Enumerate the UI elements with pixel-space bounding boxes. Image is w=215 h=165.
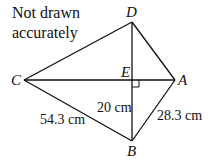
length-label-AB: 28.3 cm — [157, 108, 202, 123]
point-label-C: C — [11, 72, 22, 88]
segment-DA — [132, 22, 175, 80]
point-label-E: E — [120, 64, 130, 80]
right-angle-marker — [132, 80, 139, 87]
point-label-B: B — [127, 143, 136, 159]
length-label-EB: 20 cm — [97, 100, 132, 115]
point-label-D: D — [125, 4, 137, 20]
length-label-CB: 54.3 cm — [40, 112, 85, 127]
kite-diagram: D E A C B 20 cm 54.3 cm 28.3 cm — [0, 0, 215, 165]
point-label-A: A — [177, 72, 188, 88]
segment-CD — [24, 22, 132, 80]
